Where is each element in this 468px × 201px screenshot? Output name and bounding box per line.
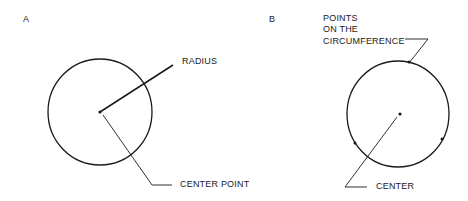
points-label-line3: CIRCUMFERENCE [323,36,405,47]
center-leader-b [345,117,397,187]
panel-b-graphics [345,39,449,187]
radius-line [100,65,173,112]
center-point-dot-a [98,110,101,113]
circumference-point-left [354,142,357,145]
circumference-point-top [408,61,411,64]
radius-label: RADIUS [182,56,217,67]
circle-diagram [0,0,468,201]
panel-a-graphics [48,59,173,185]
center-point-leader [103,115,172,185]
center-label-b: CENTER [376,181,414,192]
panel-a-letter: A [23,14,29,25]
points-label-line1: POINTS [323,13,358,24]
circle-b [347,61,449,167]
circumference-point-right [441,138,444,141]
circumference-leader [405,39,428,63]
panel-b-letter: B [269,14,275,25]
center-point-label: CENTER POINT [180,179,249,190]
center-dot-b [398,112,401,115]
points-label-line2: ON THE [323,24,358,35]
